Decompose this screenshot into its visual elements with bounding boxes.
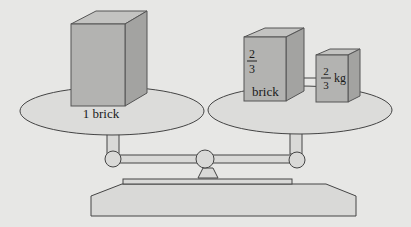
left-pan-label: 1 brick [83, 106, 120, 121]
left-joint [105, 151, 121, 167]
brick-unit: brick [252, 84, 279, 99]
right-joint [289, 152, 305, 168]
weight-unit: kg [334, 71, 346, 85]
weight-numerator: 2 [323, 65, 329, 77]
pivot [196, 150, 214, 168]
weight-denominator: 3 [323, 79, 329, 91]
brick-denominator: 3 [249, 62, 255, 76]
whole-brick [71, 11, 147, 106]
scale-base [91, 168, 356, 216]
balance-scale-diagram: 1 brick 2 3 brick 2 3 kg [0, 0, 411, 227]
brick-numerator: 2 [249, 47, 255, 61]
